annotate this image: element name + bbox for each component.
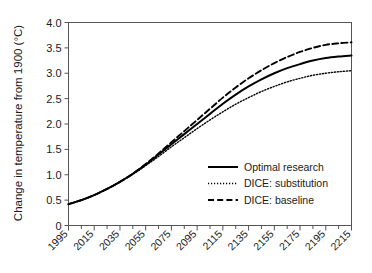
- y-tick-label: 2.5: [46, 93, 61, 105]
- chart-figure: 00.51.01.52.02.53.03.54.0 19952015203520…: [0, 0, 372, 273]
- y-tick-label: 0.5: [46, 194, 61, 206]
- y-tick-label: 1.5: [46, 143, 61, 155]
- y-tick-label: 3.5: [46, 42, 61, 54]
- legend-label: Optimal research: [244, 161, 324, 173]
- legend-label: DICE: substitution: [244, 177, 328, 189]
- y-tick-label: 1.0: [46, 169, 61, 181]
- y-tick-label: 2.0: [46, 118, 61, 130]
- legend-label: DICE: baseline: [244, 194, 314, 206]
- y-tick-label: 3.0: [46, 67, 61, 79]
- y-axis-tick-labels: 00.51.01.52.02.53.03.54.0: [46, 17, 61, 232]
- y-tick-label: 4.0: [46, 17, 61, 29]
- y-axis-title: Change in temperature from 1900 (°C): [12, 25, 24, 222]
- temperature-projection-chart: 00.51.01.52.02.53.03.54.0 19952015203520…: [0, 0, 372, 273]
